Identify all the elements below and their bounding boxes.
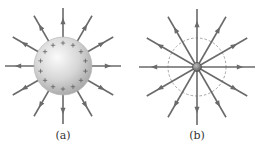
caption-a: (a) — [48, 129, 78, 142]
charged-sphere — [34, 37, 92, 95]
figure-canvas — [0, 0, 260, 152]
caption-b: (b) — [182, 129, 212, 142]
point-charge — [193, 63, 202, 72]
